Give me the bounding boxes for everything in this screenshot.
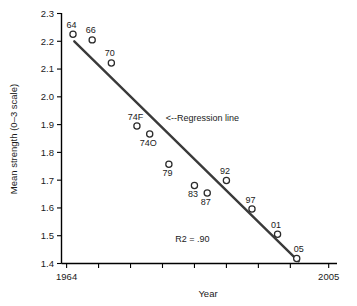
y-axis-title: Mean strength (0–3 scale) xyxy=(8,84,19,194)
r-squared: R2 = .90 xyxy=(175,234,209,244)
y-tick-label: 2.2 xyxy=(41,36,54,47)
regression-line xyxy=(74,41,298,261)
data-point-label: 87 xyxy=(201,197,211,207)
data-point-marker xyxy=(70,31,76,37)
data-point-marker xyxy=(223,177,229,183)
data-point-label: 66 xyxy=(86,25,96,35)
x-tick-label: 2005 xyxy=(318,271,339,282)
data-point-marker xyxy=(191,182,197,188)
data-point-label: 74O xyxy=(140,138,157,148)
data-point-label: 70 xyxy=(105,48,115,58)
data-point-label: 79 xyxy=(162,168,172,178)
data-point-marker xyxy=(147,131,153,137)
data-point-label: 83 xyxy=(188,189,198,199)
y-tick-label: 2.1 xyxy=(41,63,54,74)
data-point-label: 74F xyxy=(128,112,144,122)
data-point-marker xyxy=(249,206,255,212)
chart-canvas: 2.32.22.12.01.91.81.71.61.51.4 19642005 … xyxy=(0,0,357,306)
data-point-label: 05 xyxy=(294,244,304,254)
data-point-label: 92 xyxy=(220,166,230,176)
data-point-label: 01 xyxy=(271,220,281,230)
y-tick-label: 2.3 xyxy=(41,8,54,19)
y-tick-label: 1.4 xyxy=(41,258,54,269)
regression-line-path xyxy=(74,41,298,261)
data-point-label: 64 xyxy=(66,20,76,30)
y-tick-label: 1.6 xyxy=(41,202,54,213)
data-point-marker xyxy=(89,37,95,43)
data-point-label: 97 xyxy=(245,195,255,205)
y-tick-label: 1.5 xyxy=(41,230,54,241)
data-point-marker xyxy=(134,123,140,129)
regression-line-callout: <--Regression line xyxy=(166,113,239,123)
x-axis-title: Year xyxy=(198,288,217,299)
y-tick-label: 1.8 xyxy=(41,147,54,158)
data-point-marker xyxy=(166,161,172,167)
y-tick-label: 1.7 xyxy=(41,175,54,186)
scatter-chart: 2.32.22.12.01.91.81.71.61.51.4 19642005 … xyxy=(0,0,357,306)
x-axis: 19642005 xyxy=(56,264,339,282)
data-point-marker xyxy=(108,60,114,66)
x-tick-label: 1964 xyxy=(56,271,77,282)
y-axis: 2.32.22.12.01.91.81.71.61.51.4 xyxy=(41,8,62,269)
data-points: 64667074F74O79838792970105 xyxy=(66,20,303,262)
y-tick-label: 2.0 xyxy=(41,91,54,102)
data-point-marker xyxy=(294,255,300,261)
y-tick-label: 1.9 xyxy=(41,119,54,130)
data-point-marker xyxy=(204,190,210,196)
data-point-marker xyxy=(274,231,280,237)
